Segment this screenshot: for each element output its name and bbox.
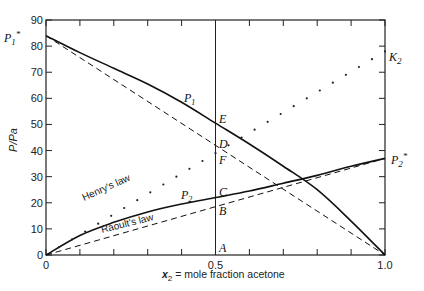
p2-star-label: P2*: [390, 151, 408, 169]
series-henry-s-law-dot: [371, 58, 373, 60]
series-henry-s-law-dot: [149, 191, 151, 193]
point-label-C: C: [219, 185, 228, 199]
y-axis-label: P/Pa: [7, 128, 19, 152]
series-henry-s-law-dot: [332, 82, 334, 84]
y-tick-label: 70: [31, 66, 43, 78]
y-tick-label: 20: [31, 197, 43, 209]
series-henry-s-law-dot: [214, 152, 216, 154]
series-henry-s-law-dot: [319, 89, 321, 91]
point-label-E: E: [218, 112, 227, 126]
series-henry-s-law-dot: [345, 74, 347, 76]
series-henry-s-law-dot: [58, 246, 60, 248]
p1-curve-label: P1: [183, 91, 195, 107]
series-henry-s-law-dot: [123, 207, 125, 209]
x-axis-label-rest: = mole fraction acetone: [172, 268, 285, 280]
point-label-B: B: [219, 204, 227, 218]
series-henry-s-law-dot: [201, 160, 203, 162]
series-henry-s-law-dot: [188, 168, 190, 170]
p1-star-asterisk: *: [16, 29, 21, 39]
series-layer: [46, 36, 386, 255]
vapor-pressure-chart: 0102030405060708090 00.51.0 P/Pa x2 = mo…: [0, 0, 424, 291]
series-henry-s-law-dot: [254, 129, 256, 131]
p1-sub: 1: [191, 98, 195, 107]
henry-law-label: Henry's law: [80, 172, 132, 203]
series-henry-s-law-dot: [175, 176, 177, 178]
series-henry-s-law-dot: [227, 144, 229, 146]
x-axis-label: x2 = mole fraction acetone: [161, 268, 285, 283]
series-henry-s-law-dot: [71, 238, 73, 240]
series-henry-s-law-dot: [280, 113, 282, 115]
series-henry-s-law-dot: [358, 66, 360, 68]
y-axis-tick-labels: 0102030405060708090: [31, 14, 43, 261]
series-henry-s-law-dot: [162, 183, 164, 185]
y-tick-label: 50: [31, 118, 43, 130]
p2-curve-label: P2: [180, 188, 192, 204]
y-tick-label: 90: [31, 14, 43, 26]
series-henry-s-law-dot: [110, 215, 112, 217]
point-label-D: D: [218, 137, 228, 151]
k2-label: K2: [388, 50, 402, 66]
series-henry-s-law-dot: [136, 199, 138, 201]
p1-star-label: P1*: [3, 29, 21, 47]
point-label-A: A: [218, 241, 227, 255]
series-henry-s-law-dot: [306, 97, 308, 99]
series-henry-s-law-dot: [293, 105, 295, 107]
p2-star-asterisk: *: [403, 151, 408, 161]
series-henry-s-law-dot: [240, 136, 242, 138]
y-tick-label: 80: [31, 40, 43, 52]
x-tick-label: 1.0: [377, 259, 392, 271]
series-henry-s-law-dot: [84, 230, 86, 232]
point-label-F: F: [218, 153, 227, 167]
y-tick-label: 30: [31, 171, 43, 183]
x-tick-label: 0: [43, 259, 49, 271]
series-henry-s-law-dot: [384, 50, 386, 52]
y-tick-label: 10: [31, 223, 43, 235]
y-tick-label: 40: [31, 145, 43, 157]
series-henry-s-law-dot: [267, 121, 269, 123]
k2-sub: 2: [397, 56, 402, 66]
p2-sub: 2: [188, 195, 192, 204]
y-tick-label: 60: [31, 92, 43, 104]
